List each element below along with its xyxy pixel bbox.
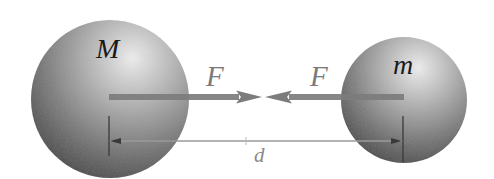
gravitation-diagram: M m F F d [0, 0, 494, 179]
force-label-left: F [205, 60, 224, 92]
force-label-right: F [309, 60, 328, 92]
distance-label: d [254, 143, 265, 167]
large-mass-label: M [95, 33, 121, 64]
small-mass-label: m [393, 49, 413, 80]
